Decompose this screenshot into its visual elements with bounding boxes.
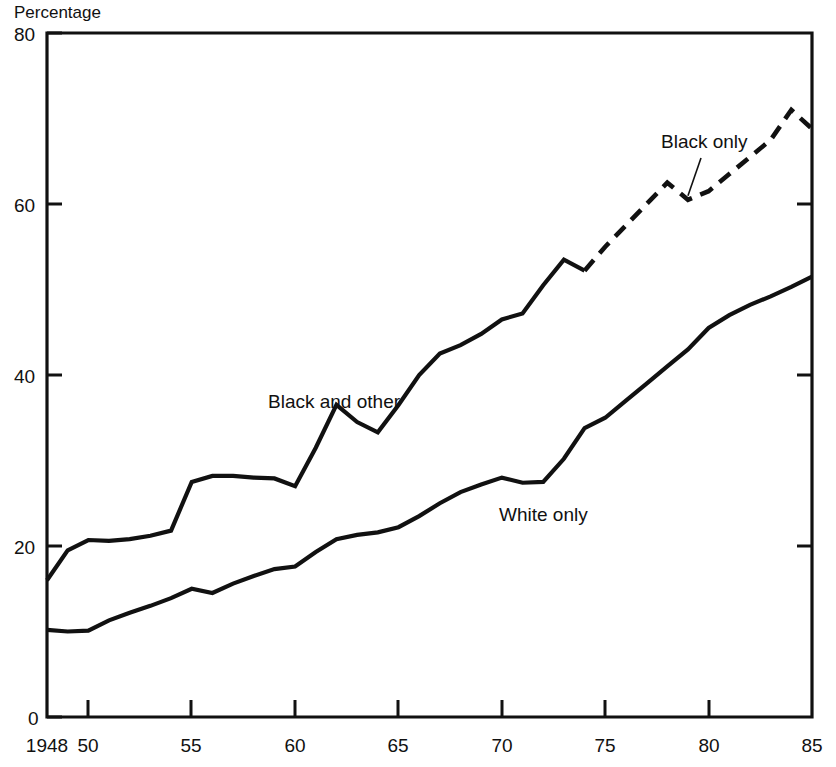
series-line-black-and-other	[47, 260, 585, 581]
x-tick-label-55: 55	[180, 735, 201, 756]
series-line-white-only	[47, 277, 812, 632]
x-tick-label-65: 65	[387, 735, 408, 756]
y-axis-title: Percentage	[14, 3, 101, 22]
series-label-black-and-other: Black and other	[268, 391, 401, 412]
black-only-leader-line	[688, 158, 701, 196]
series-label-white-only: White only	[499, 504, 588, 525]
x-tick-label-80: 80	[698, 735, 719, 756]
y-tick-label-60: 60	[14, 195, 35, 216]
x-tick-label-1948: 1948	[26, 735, 68, 756]
y-tick-label-20: 20	[14, 537, 35, 558]
y-axis-ticks-right	[797, 204, 812, 546]
y-tick-label-40: 40	[14, 366, 35, 387]
x-tick-label-85: 85	[801, 735, 822, 756]
x-tick-label-70: 70	[491, 735, 512, 756]
x-tick-label-75: 75	[594, 735, 615, 756]
y-axis-ticks	[47, 33, 62, 717]
x-axis-ticks	[88, 700, 709, 717]
series-label-black-only: Black only	[661, 131, 748, 152]
x-tick-label-60: 60	[284, 735, 305, 756]
y-tick-label-80: 80	[14, 24, 35, 45]
chart-svg: Percentage 80 60 40 20 0 1948 50 55 60 6…	[0, 0, 836, 767]
chart-container: Percentage 80 60 40 20 0 1948 50 55 60 6…	[0, 0, 836, 767]
y-tick-label-0: 0	[28, 708, 39, 729]
x-tick-label-50: 50	[77, 735, 98, 756]
